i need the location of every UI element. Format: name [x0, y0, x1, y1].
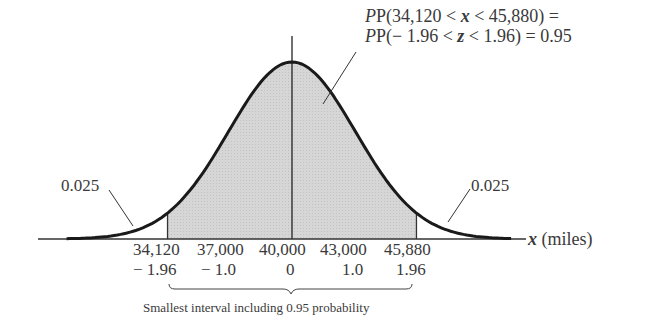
right-tail-label: 0.025: [471, 176, 509, 196]
x-tick-2: 40,000: [259, 240, 306, 260]
interval-brace: [169, 284, 412, 294]
x-tick-4: 45,880: [384, 240, 431, 260]
x-tick-3: 43,000: [320, 240, 367, 260]
z-tick-0: − 1.96: [133, 260, 177, 280]
right-tail-pointer: [448, 189, 470, 222]
x-axis-label: x (miles): [528, 229, 593, 250]
left-tail-label: 0.025: [61, 176, 99, 196]
z-tick-1: − 1.0: [201, 260, 236, 280]
prob-pointer: [323, 52, 356, 104]
left-tail-pointer: [109, 190, 133, 226]
prob-equation-line1: PP(34,120 < x < 45,880) =: [365, 6, 559, 27]
prob-equation-line2: PP(− 1.96 < z < 1.96) = 0.95: [365, 26, 572, 47]
z-tick-3: 1.0: [342, 260, 363, 280]
z-tick-4: 1.96: [396, 260, 426, 280]
x-tick-0: 34,120: [133, 240, 180, 260]
interval-caption: Smallest interval including 0.95 probabi…: [143, 300, 369, 316]
normal-curve-plot: [0, 0, 646, 333]
z-tick-2: 0: [286, 260, 295, 280]
x-tick-1: 37,000: [197, 240, 244, 260]
